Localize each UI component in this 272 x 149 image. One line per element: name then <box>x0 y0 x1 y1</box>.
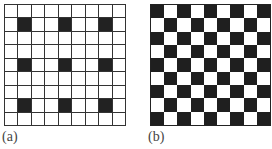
grid-cell <box>99 45 111 57</box>
grid-cell <box>191 85 204 98</box>
grid-cell <box>113 86 125 98</box>
grid-cell <box>191 5 204 18</box>
grid-cell <box>5 86 17 98</box>
grid-cell <box>99 86 111 98</box>
grid-cell <box>18 45 30 57</box>
grid-cell <box>32 59 44 71</box>
grid-cell <box>164 112 177 125</box>
grid-cell <box>164 18 177 31</box>
grid-cell <box>18 5 30 17</box>
grid-cell <box>151 112 164 125</box>
grid-cell <box>72 59 84 71</box>
grid-cell <box>151 32 164 45</box>
grid-cell <box>217 18 230 31</box>
grid-cell <box>244 5 257 18</box>
grid-cell <box>164 5 177 18</box>
grid-cell <box>191 98 204 111</box>
grid-cell <box>59 5 71 17</box>
grid-cell <box>230 32 243 45</box>
grid-cell <box>113 32 125 44</box>
grid-cell <box>244 45 257 58</box>
grid-cell <box>18 113 30 125</box>
grid-cell <box>59 45 71 57</box>
grid-cell <box>204 72 217 85</box>
grid-cell <box>32 99 44 111</box>
grid-cell <box>230 58 243 71</box>
grid-cell <box>5 99 17 111</box>
grid-cell <box>32 18 44 30</box>
grid-cell <box>244 98 257 111</box>
grid-cell <box>191 112 204 125</box>
grid-cell <box>257 112 270 125</box>
grid-a-sparse-pattern <box>4 4 126 126</box>
grid-cell <box>59 86 71 98</box>
grid-cell <box>177 72 190 85</box>
grid-cell <box>230 5 243 18</box>
grid-cell <box>45 18 57 30</box>
grid-cell <box>151 72 164 85</box>
grid-cell <box>217 85 230 98</box>
grid-cell <box>32 45 44 57</box>
grid-cell <box>86 113 98 125</box>
grid-cell <box>217 72 230 85</box>
grid-cell <box>99 99 111 111</box>
grid-cell <box>86 59 98 71</box>
grid-cell <box>45 86 57 98</box>
grid-b-checkerboard <box>150 4 271 126</box>
grid-cell <box>230 45 243 58</box>
grid-cell <box>86 45 98 57</box>
grid-cell <box>191 32 204 45</box>
grid-cell <box>177 98 190 111</box>
grid-cell <box>164 85 177 98</box>
grid-cell <box>32 86 44 98</box>
grid-cell <box>191 58 204 71</box>
grid-cell <box>72 86 84 98</box>
grid-cell <box>72 72 84 84</box>
grid-cell <box>45 32 57 44</box>
grid-cell <box>59 32 71 44</box>
grid-cell <box>18 18 30 30</box>
grid-cell <box>244 32 257 45</box>
grid-cell <box>5 18 17 30</box>
grid-cell <box>244 58 257 71</box>
grid-cell <box>257 85 270 98</box>
grid-cell <box>204 5 217 18</box>
grid-cell <box>18 99 30 111</box>
grid-cell <box>257 72 270 85</box>
grid-cell <box>217 98 230 111</box>
grid-cell <box>32 5 44 17</box>
figure-label-b: (b) <box>148 129 164 145</box>
grid-cell <box>164 98 177 111</box>
grid-cell <box>18 32 30 44</box>
grid-cell <box>257 45 270 58</box>
grid-cell <box>230 98 243 111</box>
grid-cell <box>177 58 190 71</box>
grid-cell <box>113 72 125 84</box>
grid-cell <box>72 45 84 57</box>
grid-cell <box>230 18 243 31</box>
grid-cell <box>72 5 84 17</box>
grid-cell <box>204 58 217 71</box>
grid-cell <box>204 45 217 58</box>
grid-cell <box>230 85 243 98</box>
grid-cell <box>151 98 164 111</box>
grid-cell <box>257 98 270 111</box>
grid-cell <box>72 18 84 30</box>
grid-cell <box>217 32 230 45</box>
grid-cell <box>217 112 230 125</box>
grid-cell <box>177 112 190 125</box>
grid-cell <box>5 72 17 84</box>
grid-cell <box>230 112 243 125</box>
grid-cell <box>99 59 111 71</box>
grid-cell <box>5 113 17 125</box>
grid-cell <box>191 45 204 58</box>
grid-cell <box>244 18 257 31</box>
grid-cell <box>204 112 217 125</box>
grid-cell <box>72 32 84 44</box>
grid-cell <box>99 5 111 17</box>
grid-cell <box>18 72 30 84</box>
grid-cell <box>72 99 84 111</box>
grid-cell <box>151 85 164 98</box>
grid-cell <box>86 5 98 17</box>
grid-cell <box>164 72 177 85</box>
